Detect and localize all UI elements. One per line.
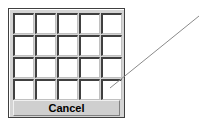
callout-line: [0, 0, 199, 122]
